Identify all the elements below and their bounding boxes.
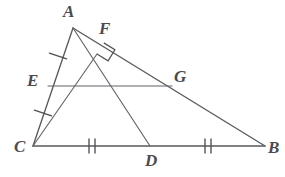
vertex-label-C: C [14, 138, 25, 155]
segment-altitude-CF [33, 54, 97, 146]
vertex-label-G: G [174, 68, 186, 85]
vertex-label-D: D [145, 152, 157, 169]
vertex-label-A: A [63, 3, 74, 20]
geometry-diagram: A F G E C D B [0, 0, 285, 177]
segment-side-AB [73, 28, 265, 146]
segment-median-AD [73, 28, 150, 146]
vertex-label-E: E [27, 72, 38, 89]
vertex-label-B: B [268, 139, 279, 156]
segment-side-AC [33, 28, 73, 146]
vertex-label-F: F [99, 20, 110, 37]
geometry-figure-svg [0, 0, 285, 177]
